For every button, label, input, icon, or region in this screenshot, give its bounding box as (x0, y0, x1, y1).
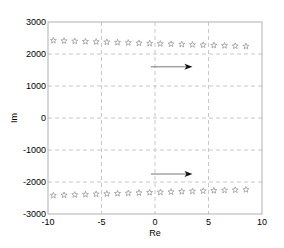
y-tick-label: 1000 (26, 81, 46, 91)
y-tick-label: 0 (41, 113, 46, 123)
y-axis-label: Im (9, 113, 19, 123)
y-tick-label: 2000 (26, 49, 46, 59)
y-tick-label: -2000 (23, 177, 46, 187)
y-tick-label: -3000 (23, 209, 46, 219)
pole-plot: -10-50510 3000200010000-1000-2000-3000 R… (0, 0, 284, 248)
x-tick-label: 0 (152, 217, 157, 227)
y-tick-label: 3000 (26, 17, 46, 27)
y-tick-label: -1000 (23, 145, 46, 155)
x-tick-label: 10 (257, 217, 267, 227)
x-axis-label: Re (149, 228, 161, 238)
x-tick-label: 5 (206, 217, 211, 227)
x-tick-label: -5 (97, 217, 105, 227)
